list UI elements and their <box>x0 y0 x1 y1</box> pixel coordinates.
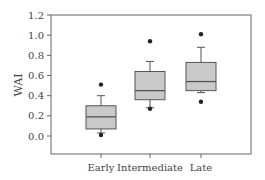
y-tick-label: 1.0 <box>28 30 44 41</box>
box-late <box>186 32 216 104</box>
outlier-point <box>148 39 152 43</box>
y-tick-label: 1.2 <box>28 10 44 21</box>
x-axis: EarlyIntermediateLate <box>88 154 213 173</box>
x-tick-label: Intermediate <box>117 162 183 173</box>
x-tick-label: Early <box>88 162 115 173</box>
y-axis: 0.00.20.40.60.81.01.2 <box>28 10 51 142</box>
y-tick-label: 0.4 <box>28 90 44 101</box>
outlier-point <box>148 107 152 111</box>
box-plot-chart: 0.00.20.40.60.81.01.2 EarlyIntermediateL… <box>0 0 265 180</box>
box-intermediate <box>135 39 165 111</box>
box-early <box>86 82 116 137</box>
y-tick-label: 0.2 <box>28 110 44 121</box>
outlier-point <box>99 133 103 137</box>
outlier-point <box>199 32 203 36</box>
y-tick-label: 0.0 <box>28 131 44 142</box>
y-tick-label: 0.6 <box>28 70 44 81</box>
x-tick-label: Late <box>190 162 213 173</box>
y-tick-label: 0.8 <box>28 50 44 61</box>
outlier-point <box>99 82 103 86</box>
y-axis-title: WAI <box>12 73 25 96</box>
box-iqr <box>135 71 165 99</box>
outlier-point <box>199 100 203 104</box>
box-iqr <box>186 62 216 90</box>
boxes <box>86 32 216 137</box>
